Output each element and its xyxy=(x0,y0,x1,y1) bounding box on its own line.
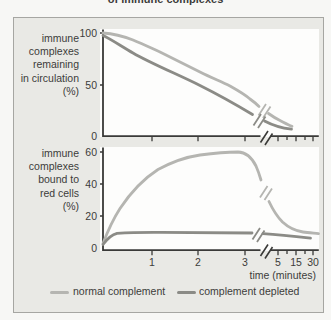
top-plot-area xyxy=(100,29,319,137)
bottom-ytick-40: 40 xyxy=(85,178,97,190)
legend-swatch-complement-depleted xyxy=(177,291,196,294)
top-y-axis-label-line: remaining xyxy=(4,58,79,71)
legend-label-normal-complement: normal complement xyxy=(73,285,165,297)
bottom-y-axis-label-line: complexes xyxy=(4,160,79,173)
top-y-axis-label-line: immune xyxy=(4,32,79,45)
xtick-1: 1 xyxy=(149,256,155,268)
bottom-y-axis-label-line: bound to xyxy=(4,173,79,186)
top-y-axis-label-line: complexes xyxy=(4,45,79,58)
bottom-y-axis-label: immune complexes bound to red cells (%) xyxy=(4,147,79,214)
top-y-axis-label-line: (%) xyxy=(4,85,79,98)
top-ytick-100: 100 xyxy=(79,27,97,39)
xtick-3: 3 xyxy=(242,256,248,268)
top-ytick-50: 50 xyxy=(85,79,97,91)
legend-swatch-normal-complement xyxy=(50,291,69,294)
top-y-axis-label: immune complexes remaining in circulatio… xyxy=(4,32,79,99)
xtick-5: 5 xyxy=(275,256,281,268)
top-ytick-0: 0 xyxy=(91,130,97,142)
xtick-2: 2 xyxy=(195,256,201,268)
bottom-y-axis-label-line: immune xyxy=(4,147,79,160)
top-y-axis-label-line: in circulation xyxy=(4,72,79,85)
bottom-ytick-0: 0 xyxy=(91,242,97,254)
bottom-y-axis-label-line: red cells xyxy=(4,187,79,200)
bottom-y-axis-label-line: (%) xyxy=(4,200,79,213)
figure-page: of immune complexes immune complexes rem… xyxy=(0,0,331,320)
legend-label-complement-depleted: complement depleted xyxy=(199,285,299,297)
bottom-ytick-60: 60 xyxy=(85,146,97,158)
x-axis-label: time (minutes) xyxy=(249,269,316,281)
xtick-15: 15 xyxy=(290,256,302,268)
bottom-ytick-20: 20 xyxy=(85,210,97,222)
xtick-30: 30 xyxy=(307,256,319,268)
